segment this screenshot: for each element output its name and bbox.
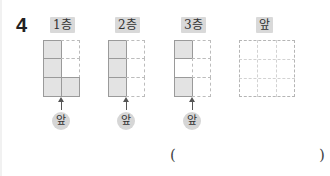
floor-2-cell-r1c2: [126, 40, 145, 59]
floor-1-cell-r1c1: [43, 40, 62, 59]
floor-1-front-arrow-icon: [61, 99, 62, 110]
floor-3-cell-r3c2: [192, 77, 211, 97]
floor-1-cell-r3c2: [61, 77, 80, 97]
floor-3-label: 3층: [181, 17, 206, 33]
floor-2-front-arrow-icon: [126, 99, 127, 110]
answer-close-paren: ): [319, 146, 325, 164]
floor-3-cell-r1c1: [174, 40, 193, 59]
floor-3-cell-r2c1: [174, 58, 193, 78]
floor-1-front-badge: 앞: [52, 112, 70, 130]
floor-2-cell-r2c2: [126, 58, 145, 78]
floor-2-front-badge: 앞: [117, 112, 135, 130]
question-number: 4: [16, 14, 27, 36]
answer-view-grid[interactable]: [239, 40, 295, 97]
floor-2-cell-r1c1: [108, 40, 127, 59]
floor-3-front-arrow-icon: [192, 99, 193, 110]
answer-grid-hline-1: [239, 59, 295, 60]
floor-3-cell-r1c2: [192, 40, 211, 59]
floor-3-cell-r3c1: [174, 77, 193, 97]
answer-input[interactable]: [182, 146, 318, 164]
floor-1-cell-r2c2: [61, 58, 80, 78]
floor-2-cell-r3c1: [108, 77, 127, 97]
answer-open-paren: (: [170, 146, 176, 164]
floor-1-cell-r2c1: [43, 58, 62, 78]
floor-1-cell-r3c1: [43, 77, 62, 97]
page-margin-rule: [0, 0, 2, 176]
floor-1-cell-r1c2: [61, 40, 80, 59]
answer-grid-vline-2: [276, 40, 277, 97]
answer-grid-outline: [239, 40, 295, 97]
answer-view-label: 앞: [256, 17, 273, 33]
floor-1-label: 1층: [50, 17, 75, 33]
answer-grid-hline-2: [239, 78, 295, 79]
floor-3-cell-r2c2: [192, 58, 211, 78]
floor-2-cell-r2c1: [108, 58, 127, 78]
answer-grid-vline-1: [257, 40, 258, 97]
floor-2-label: 2층: [115, 17, 140, 33]
floor-2-cell-r3c2: [126, 77, 145, 97]
floor-3-front-badge: 앞: [183, 112, 201, 130]
